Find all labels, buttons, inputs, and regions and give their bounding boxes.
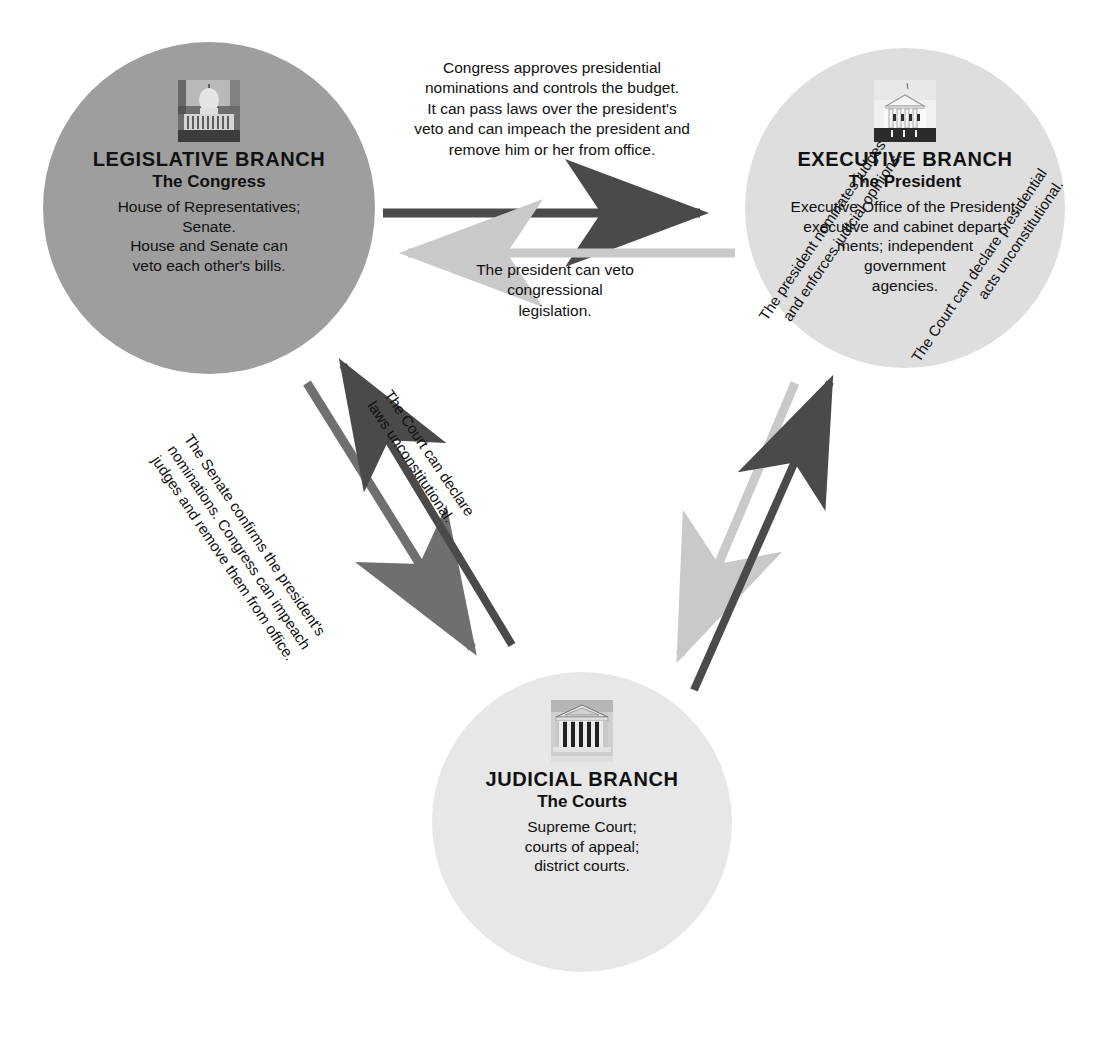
checks-and-balances-diagram: LEGISLATIVE BRANCH The Congress House of…	[0, 0, 1104, 1038]
arrow-president-to-courts	[680, 383, 795, 655]
capitol-building-icon	[178, 80, 240, 142]
legislative-subtitle: The Congress	[152, 173, 265, 192]
legislative-description: House of Representatives; Senate. House …	[118, 197, 301, 276]
judicial-branch-node[interactable]: JUDICIAL BRANCH The Courts Supreme Court…	[432, 672, 732, 972]
legislative-title: LEGISLATIVE BRANCH	[93, 149, 326, 170]
legislative-branch-node[interactable]: LEGISLATIVE BRANCH The Congress House of…	[43, 42, 375, 374]
caption-congress-to-president: Congress approves presidential nominatio…	[392, 58, 712, 160]
judicial-title: JUDICIAL BRANCH	[485, 769, 678, 790]
white-house-icon	[874, 80, 936, 142]
caption-president-to-congress: The president can veto congressional leg…	[420, 260, 690, 321]
supreme-court-building-icon	[551, 700, 613, 762]
judicial-subtitle: The Courts	[537, 793, 627, 812]
judicial-description: Supreme Court; courts of appeal; distric…	[525, 817, 640, 876]
arrow-court-to-president	[694, 382, 830, 690]
